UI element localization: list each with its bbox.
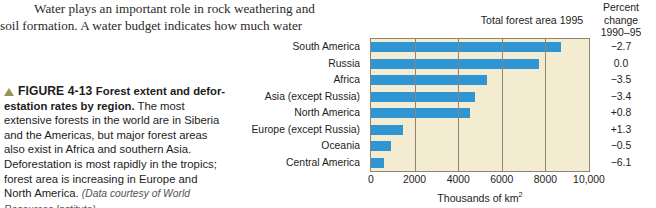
gridline (545, 39, 546, 171)
bar-row (371, 56, 589, 73)
percent-change-header-line-1: Percent (588, 2, 654, 15)
category-label: Asia (except Russia) (265, 89, 360, 106)
value-axis-ticks: 0200040006000800010,000 (370, 174, 590, 188)
plot-area (370, 38, 590, 172)
bar-rows (371, 39, 589, 171)
percent-change-value: +1.3 (592, 122, 650, 139)
percent-change-value: −2.7 (592, 39, 650, 56)
x-axis-title-text: Thousands of km (437, 192, 518, 204)
percent-change-value: −0.5 (592, 138, 650, 155)
percent-change-column: −2.70.0−3.5−3.4+0.8+1.3−0.5−6.1 (592, 38, 650, 172)
caption-body: The most extensive forests in the world … (4, 100, 219, 200)
bar-row (371, 39, 589, 56)
forest-area-chart: Total forest area 1995 Percent change 19… (232, 0, 656, 208)
gridline (415, 39, 416, 171)
x-axis-title-superscript: 2 (519, 190, 523, 199)
gridline (458, 39, 459, 171)
category-label: Africa (333, 72, 360, 89)
percent-change-header-line-2: change (588, 15, 654, 28)
x-axis-title: Thousands of km2 (370, 190, 590, 204)
category-label: South America (292, 39, 360, 56)
figure-page: Water plays an important role in rock we… (0, 0, 656, 208)
bar (371, 42, 561, 52)
bar-row (371, 138, 589, 155)
bar (371, 75, 487, 85)
value-tick-label: 10,000 (573, 174, 605, 185)
value-tick-label: 2000 (403, 174, 426, 185)
gridline (502, 39, 503, 171)
percent-change-value: +0.8 (592, 105, 650, 122)
bar (371, 59, 539, 69)
bar (371, 158, 384, 168)
category-label: Central America (286, 155, 360, 172)
figure-caption: FIGURE 4-13 Forest extent and defor-esta… (4, 84, 228, 208)
percent-change-value: −3.4 (592, 89, 650, 106)
bar (371, 108, 470, 118)
figure-label: FIGURE 4-13 (18, 84, 92, 98)
bar-row (371, 72, 589, 89)
category-axis-labels: South AmericaRussiaAfricaAsia (except Ru… (232, 38, 366, 172)
category-label: Russia (328, 56, 360, 73)
bar-row (371, 122, 589, 139)
value-tick-label: 0 (368, 174, 374, 185)
value-tick-label: 8000 (534, 174, 557, 185)
percent-change-value: −3.5 (592, 72, 650, 89)
value-tick-label: 4000 (447, 174, 470, 185)
bar (371, 141, 391, 151)
value-tick-label: 6000 (490, 174, 513, 185)
bar-row (371, 105, 589, 122)
category-label: Oceania (321, 138, 360, 155)
percent-change-value: 0.0 (592, 56, 650, 73)
bar-row (371, 89, 589, 106)
bar-row (371, 155, 589, 172)
percent-change-value: −6.1 (592, 155, 650, 172)
percent-change-header: Percent change 1990–95 (588, 2, 654, 40)
bar (371, 125, 403, 135)
triangle-up-icon (4, 88, 14, 96)
category-label: Europe (except Russia) (251, 122, 360, 139)
category-label: North America (294, 105, 360, 122)
